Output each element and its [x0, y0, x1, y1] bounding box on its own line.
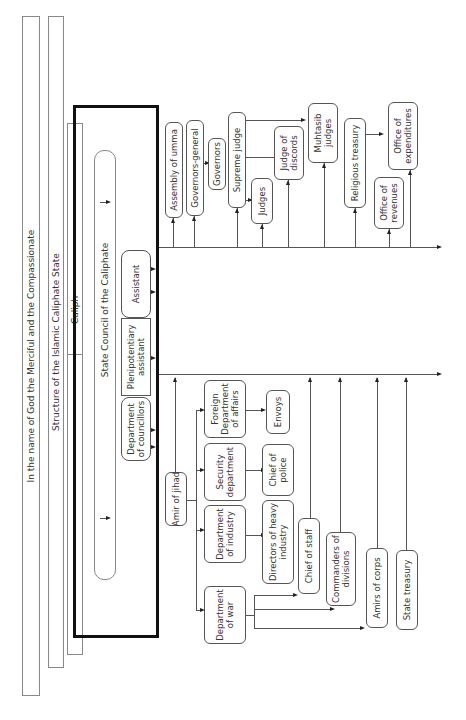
- commanders-of-divisions-box[interactable]: Commanders of divisions: [326, 532, 356, 606]
- chief-of-staff-box[interactable]: Chief of staff: [298, 518, 320, 594]
- title-band: Structure of the Islamic Caliphate State: [48, 16, 64, 668]
- invocation-band: In the name of God the Merciful and the …: [22, 16, 40, 696]
- muhtasib-judges-box[interactable]: Muhtasib judges: [308, 103, 338, 163]
- religious-treasury-box[interactable]: Religious treasury: [344, 118, 366, 208]
- department-of-war-box[interactable]: Department of war: [204, 586, 246, 644]
- assistant-box[interactable]: Assistant: [121, 250, 151, 318]
- page-title: Structure of the Islamic Caliphate State: [51, 253, 61, 431]
- assembly-of-umma-box[interactable]: Assembly of umma: [165, 122, 183, 218]
- governors-general-box[interactable]: Governors-general: [186, 120, 204, 216]
- judges-box[interactable]: Judges: [251, 178, 273, 224]
- upper-bus: [159, 247, 439, 248]
- invocation-text: In the name of God the Merciful and the …: [26, 230, 36, 483]
- directors-of-heavy-industry-box[interactable]: Directors of heavy industry: [262, 500, 294, 584]
- security-department-box[interactable]: Security department: [204, 443, 246, 501]
- department-of-industry-box[interactable]: Department of industry: [204, 505, 246, 563]
- office-of-expenditures-box[interactable]: Office of expenditures: [388, 102, 418, 170]
- amir-of-jihad-box[interactable]: Amir of jihad: [165, 472, 187, 526]
- chief-of-police-box[interactable]: Chief of police: [262, 444, 294, 496]
- governors-box[interactable]: Governors: [208, 138, 226, 190]
- department-of-councillors-box[interactable]: Department of councillors: [121, 397, 151, 461]
- amirs-of-corps-box[interactable]: Amirs of corps: [366, 548, 388, 628]
- plenipotentiary-assistant-box[interactable]: Plenipotentiary assistant: [121, 318, 151, 396]
- envoys-box[interactable]: Envoys: [266, 390, 290, 434]
- lower-bus: [159, 374, 439, 375]
- judge-of-discords-box[interactable]: Judge of discords: [274, 126, 304, 180]
- state-treasury-box[interactable]: State treasury: [396, 550, 418, 630]
- supreme-judge-box[interactable]: Supreme judge: [228, 112, 246, 208]
- foreign-affairs-box[interactable]: Foreign Department of affairs: [204, 380, 246, 438]
- office-of-revenues-box[interactable]: Office of revenues: [374, 177, 404, 229]
